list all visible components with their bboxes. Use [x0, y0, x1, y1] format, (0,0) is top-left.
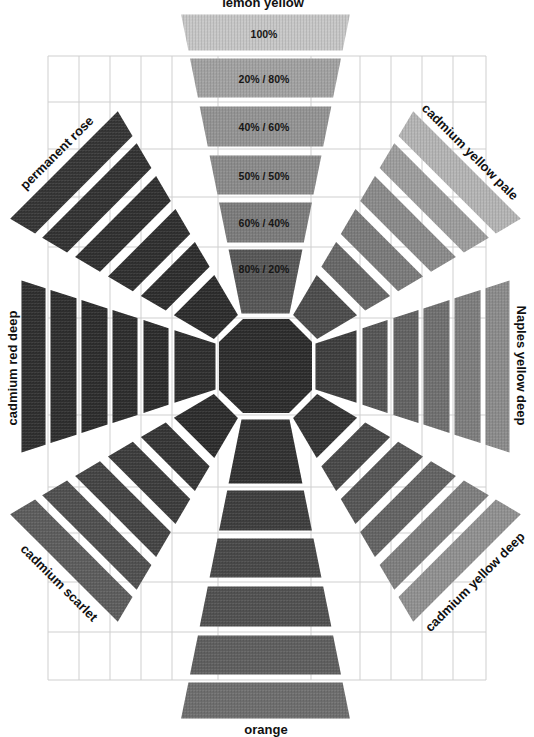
center-mix-texture — [219, 319, 312, 413]
pigment-label-naples-yellow-deep: Naples yellow deep — [514, 306, 529, 426]
pigment-label-lemon-yellow: lemon yellow — [222, 0, 305, 10]
paper-texture — [394, 310, 419, 423]
pigment-label-orange: orange — [244, 722, 287, 737]
paper-texture — [22, 280, 46, 452]
paper-texture — [363, 320, 388, 413]
mix-ratio-label-2: 20% / 80% — [239, 73, 290, 85]
mix-ratio-label-6: 80% / 20% — [239, 263, 290, 275]
mix-ratio-label-1: 100% — [251, 28, 279, 40]
paper-texture — [210, 539, 322, 578]
paper-texture — [455, 290, 481, 443]
paper-texture — [113, 310, 138, 423]
paper-texture — [200, 587, 332, 627]
paper-texture — [229, 420, 303, 484]
paper-texture — [229, 250, 303, 314]
mix-ratio-label-3: 40% / 60% — [239, 121, 290, 133]
mix-ratio-label-5: 60% / 40% — [239, 217, 290, 229]
color-mixing-diagram: 100% 20% / 80% 40% / 60% 50% / 50% 60% /… — [0, 0, 534, 737]
paper-texture — [219, 491, 312, 531]
paper-texture — [486, 280, 510, 452]
paper-texture — [181, 683, 350, 719]
paper-texture — [190, 636, 341, 675]
paper-texture — [51, 290, 77, 443]
pigment-label-cadmium-red-deep: cadmium red deep — [5, 311, 20, 426]
paper-texture — [144, 320, 169, 413]
paper-texture — [424, 300, 450, 433]
paper-texture — [82, 300, 108, 433]
mix-ratio-label-4: 50% / 50% — [239, 170, 290, 182]
